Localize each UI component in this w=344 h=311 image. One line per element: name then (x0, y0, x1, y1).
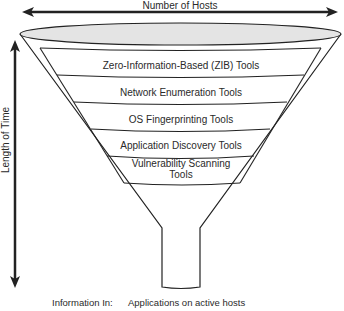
footer-value: Applications on active hosts (128, 297, 245, 308)
layer-vulnerability-scanning-line1: Vulnerability Scanning (132, 158, 231, 169)
top-axis-label: Number of Hosts (142, 0, 217, 11)
layer-network-enumeration-tools: Network Enumeration Tools (120, 87, 242, 98)
layer-os-fingerprinting-tools: OS Fingerprinting Tools (129, 114, 233, 125)
funnel-diagram: Number of Hosts Length of Time Zero-Info… (0, 0, 344, 311)
layer-zib-tools: Zero-Information-Based (ZIB) Tools (103, 60, 260, 71)
layer-application-discovery-tools: Application Discovery Tools (120, 140, 242, 151)
length-of-time-arrow (10, 40, 20, 288)
layer-vulnerability-scanning-line2: Tools (169, 169, 192, 180)
side-axis-label: Length of Time (0, 106, 11, 173)
footer-label: Information In: (52, 297, 113, 308)
funnel-mouth (20, 23, 341, 45)
